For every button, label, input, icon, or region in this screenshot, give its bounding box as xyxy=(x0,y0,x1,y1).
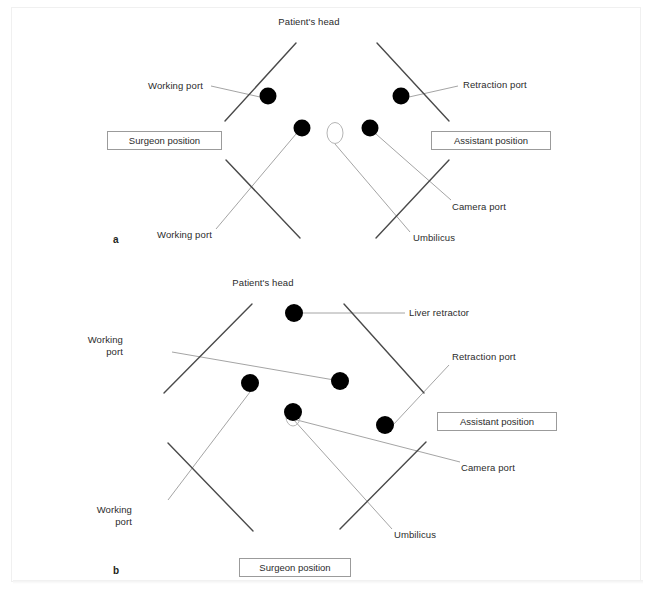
leader-working-port-lower xyxy=(216,134,296,229)
body-line-lower-left xyxy=(168,443,253,531)
assistant-position-box[interactable]: Assistant position xyxy=(431,131,551,150)
label-patients-head: Patient's head xyxy=(223,277,303,289)
label-camera-port: Camera port xyxy=(461,462,515,474)
leader-umbilicus xyxy=(293,419,392,529)
body-line-upper-right xyxy=(377,43,449,121)
port-working-upper-left[interactable] xyxy=(260,88,277,105)
leader-working-port-lower xyxy=(168,392,250,500)
panel-letter-a: a xyxy=(113,234,119,245)
port-retraction-right[interactable] xyxy=(376,416,394,434)
body-line-lower-right xyxy=(376,160,449,238)
label-retraction-port: Retraction port xyxy=(452,351,516,363)
label-retraction-port: Retraction port xyxy=(463,79,527,91)
label-camera-port: Camera port xyxy=(452,201,506,213)
port-camera-lower-right[interactable] xyxy=(362,120,379,137)
label-umbilicus: Umbilicus xyxy=(394,529,436,541)
port-working-mid[interactable] xyxy=(331,372,349,390)
surgeon-position-box[interactable]: Surgeon position xyxy=(107,131,222,150)
port-camera-center[interactable] xyxy=(284,403,302,421)
port-retraction-upper-right[interactable] xyxy=(393,88,410,105)
body-line-upper-left xyxy=(164,304,252,393)
panel-letter-b: b xyxy=(113,565,119,576)
label-working-port-lower: Working port xyxy=(157,229,212,241)
panel-a xyxy=(211,43,458,238)
assistant-position-box[interactable]: Assistant position xyxy=(437,412,557,431)
port-liver-retractor[interactable] xyxy=(285,304,303,322)
body-line-upper-left xyxy=(225,43,296,121)
label-working-port-upper: Working port xyxy=(148,80,203,92)
body-line-lower-left xyxy=(226,160,300,238)
leader-retraction-port xyxy=(409,86,458,97)
label-umbilicus: Umbilicus xyxy=(413,232,455,244)
label-working-port-upper: Working port xyxy=(73,334,123,358)
port-working-lower-left[interactable] xyxy=(294,120,311,137)
port-working-left[interactable] xyxy=(241,374,259,392)
label-working-port-lower: Working port xyxy=(82,504,132,528)
leader-umbilicus xyxy=(335,144,410,232)
surgeon-position-box[interactable]: Surgeon position xyxy=(239,558,351,577)
panel-b xyxy=(164,304,460,531)
label-patients-head: Patient's head xyxy=(269,16,349,28)
label-liver-retractor: Liver retractor xyxy=(409,307,469,319)
umbilicus-marker xyxy=(327,123,343,144)
figure-root: Patient's headWorking portRetraction por… xyxy=(0,0,652,597)
